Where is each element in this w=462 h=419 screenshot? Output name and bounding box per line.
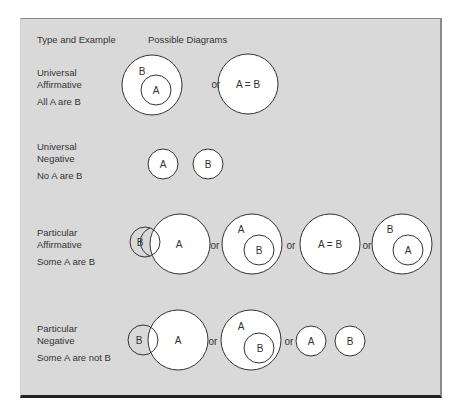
venn-diagrams: B A or A = B A B B A or A B or A = B or … [0,0,462,419]
label-b: B [257,343,264,354]
pn-diagram-disjoint [296,326,365,356]
label-b: B [256,245,263,256]
label-a: A [176,239,183,250]
label-or: or [287,240,297,251]
label-a: A [405,245,412,256]
label-b: B [137,237,144,248]
pa-diagram-b-contains-a [372,214,432,274]
pn-diagram-a-contains-b [221,310,281,370]
label-b: B [387,224,394,235]
label-or: or [212,79,222,90]
label-a: A [238,224,245,235]
label-b: B [136,335,143,346]
pa-diagram-a-contains-b [222,214,282,274]
label-b: B [139,66,146,77]
label-a: A [238,321,245,332]
label-a-equals-b: A = B [236,79,261,90]
label-or: or [285,336,295,347]
label-or: or [209,336,219,347]
label-a: A [153,85,160,96]
label-b: B [347,336,354,347]
label-a-equals-b: A = B [318,239,343,250]
label-b: B [205,159,212,170]
label-a: A [308,336,315,347]
label-or: or [211,240,221,251]
label-a: A [160,159,167,170]
label-or: or [363,240,373,251]
label-a: A [175,335,182,346]
